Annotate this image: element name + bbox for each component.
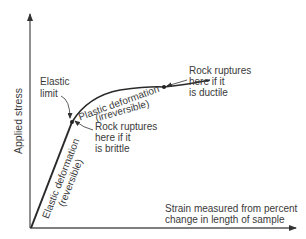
ductile-label-line2: here if it (189, 76, 225, 87)
ductile-label-line1: Rock ruptures (189, 65, 251, 76)
elastic-limit-point (70, 120, 74, 124)
brittle-pointer (75, 121, 93, 130)
brittle-label-line2: here if it (95, 132, 131, 143)
x-axis-label-line1: Strain measured from percent (165, 203, 297, 214)
elastic-limit-label-line2: limit (40, 88, 58, 99)
brittle-label-line3: is brittle (95, 143, 129, 154)
ductile-rupture-point (162, 85, 166, 89)
x-axis-label-line2: change in length of sample (165, 214, 285, 225)
brittle-label-line1: Rock ruptures (95, 121, 157, 132)
elastic-limit-label-line1: Elastic (40, 76, 69, 87)
y-axis-label: Applied stress (13, 88, 24, 154)
ductile-label-line3: is ductile (189, 87, 228, 98)
elastic-limit-pointer (61, 96, 70, 118)
